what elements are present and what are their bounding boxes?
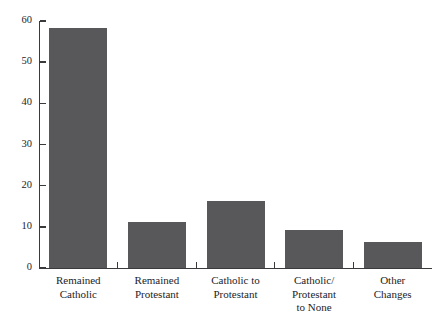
x-axis-label: Other Changes [353, 274, 432, 301]
x-tick-mark [117, 262, 118, 269]
y-tick-mark [40, 226, 46, 227]
x-axis-label: Remained Catholic [39, 274, 118, 301]
y-tick-mark [40, 20, 46, 21]
y-tick-mark [40, 103, 46, 104]
y-tick-label: 20 [8, 180, 32, 191]
x-axis-label: Catholic/ Protestant to None [275, 274, 354, 315]
y-tick-mark [40, 267, 46, 268]
y-tick-label: 50 [8, 56, 32, 67]
y-tick-label: 30 [8, 139, 32, 150]
y-tick-label: 60 [8, 15, 32, 26]
y-tick-label: 10 [8, 221, 32, 232]
y-tick-mark [40, 61, 46, 62]
bar [207, 201, 265, 268]
x-axis-label: Remained Protestant [118, 274, 197, 301]
bar [128, 222, 186, 268]
bar-chart-figure: 0102030405060 Remained CatholicRemained … [0, 0, 447, 324]
x-axis-line [39, 268, 432, 269]
y-tick-mark [40, 144, 46, 145]
bar [49, 28, 107, 268]
x-axis-label: Catholic to Protestant [196, 274, 275, 301]
x-tick-mark [353, 262, 354, 269]
y-tick-mark [40, 185, 46, 186]
y-tick-label: 40 [8, 97, 32, 108]
x-tick-mark [196, 262, 197, 269]
x-tick-mark [274, 262, 275, 269]
bar [364, 242, 422, 268]
y-tick-label: 0 [8, 262, 32, 273]
bar [285, 230, 343, 268]
